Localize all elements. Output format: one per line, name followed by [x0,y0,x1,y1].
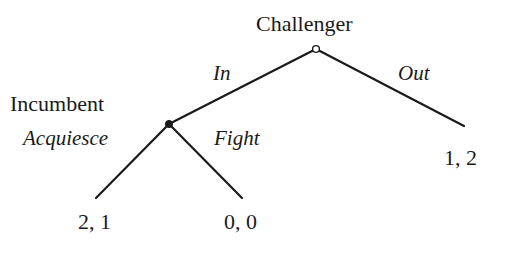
action-acquiesce-label: Acquiesce [23,128,108,149]
edge-out [316,49,464,126]
action-fight-label: Fight [214,128,260,149]
payoff-acquiesce: 2, 1 [78,211,111,233]
incumbent-node-icon [165,120,172,127]
incumbent-label: Incumbent [10,93,104,115]
action-in-label: In [213,63,231,84]
game-tree-diagram: Challenger Incumbent In Out Acquiesce Fi… [0,0,506,256]
challenger-node-icon [313,46,320,53]
edge-in [169,49,316,124]
action-out-label: Out [398,63,430,84]
payoff-out: 1, 2 [444,147,477,169]
challenger-label: Challenger [256,13,353,35]
payoff-fight: 0, 0 [224,211,257,233]
